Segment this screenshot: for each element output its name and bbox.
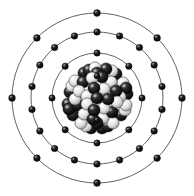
- electron-shell-2: [49, 95, 55, 101]
- electron-shell-2: [62, 63, 68, 69]
- bohr-atom-diagram: [0, 0, 194, 196]
- electron-shell-3: [151, 62, 158, 69]
- electron-shell-3: [37, 128, 44, 135]
- electron-shell-2: [126, 127, 132, 133]
- electron-shell-3: [37, 62, 44, 69]
- electron-shell-3: [51, 145, 58, 152]
- electron-shell-4: [9, 95, 16, 102]
- electron-shell-4: [154, 155, 161, 162]
- electron-shell-3: [159, 83, 166, 90]
- electron-shell-1: [94, 117, 100, 123]
- electron-shell-3: [29, 83, 36, 90]
- electron-shell-3: [116, 33, 123, 40]
- electron-shell-3: [71, 157, 78, 164]
- atom-svg-canvas: [0, 0, 194, 196]
- nucleon-proton: [102, 93, 114, 105]
- electron-shell-3: [94, 29, 101, 36]
- electron-shell-3: [94, 161, 101, 168]
- electron-shell-2: [62, 127, 68, 133]
- electron-shell-3: [151, 128, 158, 135]
- electron-shell-4: [33, 34, 40, 41]
- electron-shell-2: [126, 63, 132, 69]
- electron-shell-4: [94, 180, 101, 187]
- nucleon-proton: [88, 104, 100, 116]
- electron-shell-3: [136, 44, 143, 51]
- electron-shell-3: [51, 44, 58, 51]
- electron-shell-3: [71, 33, 78, 40]
- electron-shell-3: [159, 106, 166, 113]
- electron-shell-4: [33, 155, 40, 162]
- electron-shell-4: [154, 34, 161, 41]
- electron-shell-3: [116, 157, 123, 164]
- electron-shell-2: [139, 95, 145, 101]
- electron-shell-4: [94, 10, 101, 17]
- electron-shell-3: [29, 106, 36, 113]
- electron-shell-3: [136, 145, 143, 152]
- electron-shell-4: [179, 95, 186, 102]
- nucleon-proton: [91, 92, 103, 104]
- electron-shell-1: [94, 73, 100, 79]
- electron-shell-2: [94, 50, 100, 56]
- electron-shell-2: [94, 140, 100, 146]
